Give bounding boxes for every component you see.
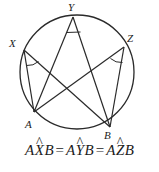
geometry-figure	[0, 0, 159, 140]
vertex-label-A: A	[25, 119, 32, 130]
equation-term-1-pre: A	[25, 142, 34, 158]
equation-term-3: A^ZB	[106, 142, 134, 159]
vertex-label-B: B	[104, 130, 111, 141]
hat-accent-icon: ^	[36, 135, 43, 149]
vertex-label-X: X	[9, 38, 16, 49]
angle-mark-Y	[67, 32, 81, 33]
angle-mark-Z	[111, 59, 123, 63]
equation-relation-2: =	[94, 142, 106, 159]
equation-term-2-pre: A	[66, 142, 75, 158]
equation-term-3-pre: A	[106, 142, 115, 158]
hat-accent-icon: ^	[117, 135, 124, 149]
equation-term-1-vertex-group: ^X	[34, 142, 44, 159]
equation-relation-1: =	[54, 142, 66, 159]
equation-term-1: A^XB	[25, 142, 54, 159]
equation-term-3-post: B	[125, 142, 134, 158]
equation-term-2-vertex-group: ^Y	[75, 142, 84, 159]
segment-Z-B	[110, 47, 124, 127]
equation-term-2-post: B	[85, 142, 94, 158]
equation-line: A^XB=A^YB=A^ZB	[0, 142, 159, 159]
equation-term-1-post: B	[44, 142, 53, 158]
equation-term-2: A^YB	[66, 142, 94, 159]
hat-accent-icon: ^	[77, 135, 84, 149]
equation-term-3-vertex-group: ^Z	[115, 142, 124, 159]
figure-page: X Y Z A B A^XB=A^YB=A^ZB	[0, 0, 159, 172]
vertex-label-Y: Y	[68, 2, 74, 13]
vertex-label-Z: Z	[127, 33, 133, 44]
